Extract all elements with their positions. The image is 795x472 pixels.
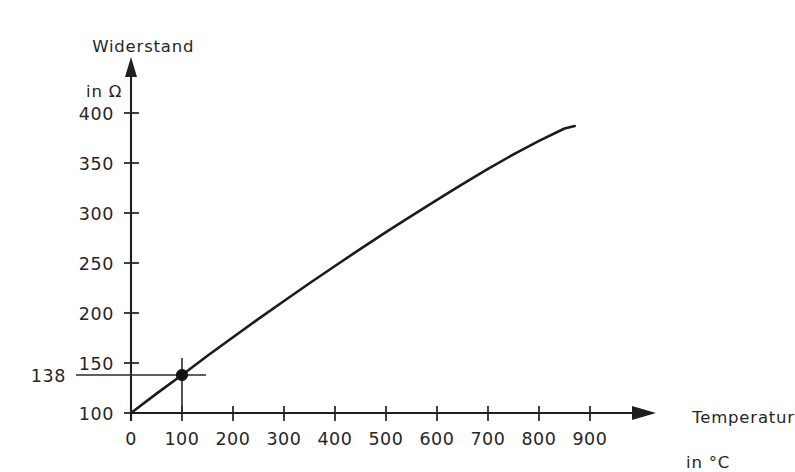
- y-tick-label-250: 250: [62, 253, 114, 277]
- x-tick-label-100: 100: [160, 428, 204, 452]
- x-tick-label-200: 200: [211, 428, 255, 452]
- y-axis-title-line2: in Ω: [68, 81, 194, 103]
- y-tick-label-150: 150: [62, 353, 114, 377]
- y-axis-title-line1: Widerstand: [92, 37, 194, 56]
- y-axis-title: Widerstand in Ω: [68, 14, 194, 148]
- y-tick-label-350: 350: [62, 153, 114, 177]
- x-tick-label-0: 0: [109, 428, 153, 452]
- x-tick-label-700: 700: [466, 428, 510, 452]
- operating-point-marker: [176, 369, 187, 380]
- x-axis-title: Temperatur in °C: [668, 385, 795, 472]
- x-axis-arrow-icon: [632, 406, 656, 420]
- x-axis: [131, 406, 656, 420]
- y-tick-label-100: 100: [62, 403, 114, 427]
- resistance-curve: [131, 126, 575, 413]
- x-tick-label-600: 600: [415, 428, 459, 452]
- x-tick-label-500: 500: [364, 428, 408, 452]
- x-tick-label-300: 300: [262, 428, 306, 452]
- operating-point-value-label: 138: [14, 365, 66, 389]
- x-tick-label-800: 800: [517, 428, 561, 452]
- x-axis-title-line1: Temperatur: [692, 408, 795, 427]
- y-tick-label-400: 400: [62, 103, 114, 127]
- x-tick-label-900: 900: [568, 428, 612, 452]
- x-tick-label-400: 400: [313, 428, 357, 452]
- x-axis-title-line2: in °C: [668, 452, 795, 472]
- y-tick-label-300: 300: [62, 203, 114, 227]
- y-tick-label-200: 200: [62, 303, 114, 327]
